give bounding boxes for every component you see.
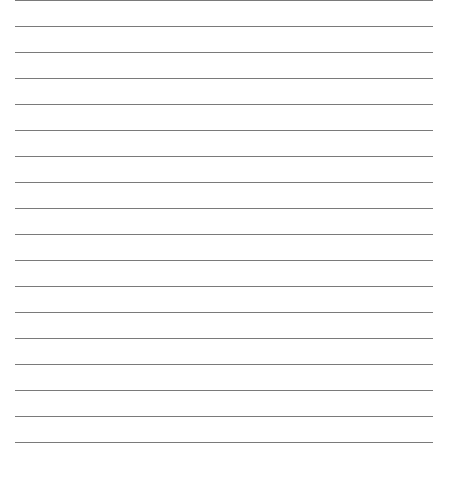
ruled-line	[15, 26, 433, 27]
ruled-line	[15, 0, 433, 1]
ruled-line	[15, 104, 433, 105]
ruled-line	[15, 156, 433, 157]
ruled-line	[15, 208, 433, 209]
ruled-line	[15, 390, 433, 391]
ruled-line	[15, 260, 433, 261]
ruled-line	[15, 78, 433, 79]
ruled-line	[15, 286, 433, 287]
ruled-line	[15, 52, 433, 53]
ruled-line	[15, 312, 433, 313]
ruled-line	[15, 130, 433, 131]
ruled-line	[15, 182, 433, 183]
ruled-line	[15, 338, 433, 339]
ruled-line	[15, 234, 433, 235]
ruled-line	[15, 416, 433, 417]
ruled-line	[15, 442, 433, 443]
ruled-line	[15, 364, 433, 365]
